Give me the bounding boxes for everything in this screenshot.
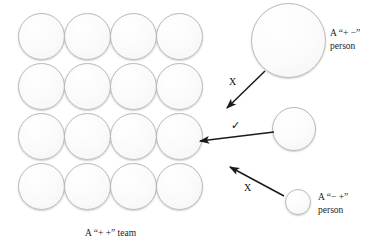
arrow-bottom-rejected-mark: X [244,182,251,193]
minus-plus-person-label-line2: person [318,204,348,217]
plus-minus-person-label-line1: A “+ −” [330,27,360,40]
arrow-middle-accepted [200,132,274,141]
minus-plus-person-label-line1: A “− +” [318,191,348,204]
plus-minus-person-label: A “+ −”person [330,27,360,52]
diagram-canvas: X✓X A “+ −”personA “− +”person A “+ +” t… [0,0,390,252]
arrow-bottom-rejected [230,167,284,196]
plus-minus-person-label-line2: person [330,40,360,53]
minus-plus-person-label: A “− +”person [318,191,348,216]
arrow-middle-accepted-mark: ✓ [231,119,240,132]
arrow-top-rejected-mark: X [229,76,236,87]
team-label: A “+ +” team [85,228,136,238]
